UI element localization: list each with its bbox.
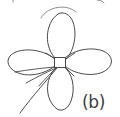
figure-panel-b: (b) (0, 0, 120, 117)
panel-label: (b) (82, 91, 112, 115)
center-square-hub (55, 58, 66, 68)
